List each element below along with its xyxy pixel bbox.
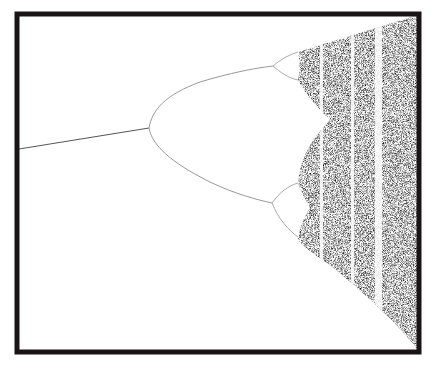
period-4-a	[273, 52, 298, 66]
period-4-c	[272, 183, 298, 203]
period-2-lower	[149, 128, 272, 203]
period-2-upper	[149, 66, 273, 128]
period-4-d	[272, 203, 298, 237]
chaotic-region	[290, 10, 425, 355]
fixed-point-line	[19, 128, 149, 149]
period-4-b	[273, 66, 298, 80]
bifurcation-branches	[19, 52, 298, 237]
bifurcation-diagram	[0, 0, 436, 369]
